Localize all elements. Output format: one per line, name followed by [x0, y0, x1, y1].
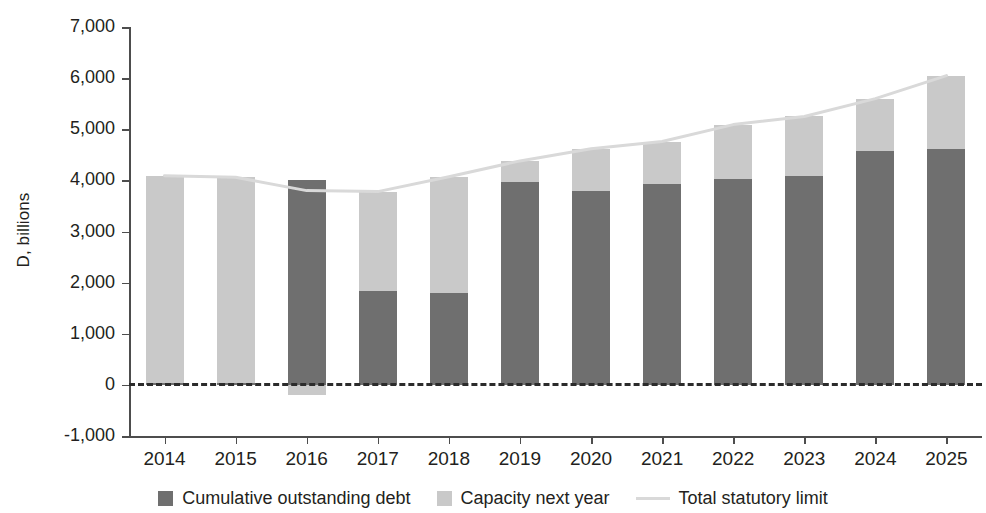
y-axis-tick-label: 6,000 [70, 67, 115, 87]
y-axis-tick-label: 4,000 [70, 169, 115, 189]
x-axis-tick-label: 2024 [840, 447, 911, 471]
chart-container: D, billions 7,0006,0005,0004,0003,0002,0… [0, 0, 986, 513]
x-axis-tick-mark [591, 436, 593, 444]
y-axis-tick-label: 5,000 [70, 118, 115, 138]
x-axis-tick-mark [946, 436, 948, 444]
plot-area: 7,0006,0005,0004,0003,0002,0001,0000-1,0… [0, 0, 986, 445]
x-axis-tick-mark [804, 436, 806, 444]
chart-legend: Cumulative outstanding debtCapacity next… [0, 483, 986, 513]
x-axis-tick-label: 2017 [342, 447, 413, 471]
x-axis-tick-label: 2016 [271, 447, 342, 471]
x-axis-tick-mark [449, 436, 451, 444]
legend-item[interactable]: Cumulative outstanding debt [158, 488, 410, 509]
x-axis-tick-label: 2018 [413, 447, 484, 471]
x-axis-tick-label: 2021 [627, 447, 698, 471]
x-axis-tick-label: 2020 [556, 447, 627, 471]
x-axis-tick-mark [165, 436, 167, 444]
x-axis-tick-label: 2015 [200, 447, 271, 471]
legend-item[interactable]: Capacity next year [437, 488, 610, 509]
legend-item-label: Total statutory limit [679, 488, 828, 509]
y-axis-tick-label: -1,000 [64, 425, 115, 445]
x-axis-tick-label: 2025 [911, 447, 982, 471]
y-axis-tick-label: 2,000 [70, 272, 115, 292]
zero-baseline [129, 383, 982, 386]
x-axis-tick-mark [520, 436, 522, 444]
x-axis-tick-mark [236, 436, 238, 444]
x-axis-tick-label: 2019 [484, 447, 555, 471]
legend-item-label: Cumulative outstanding debt [182, 488, 410, 509]
y-axis-tick-label: 3,000 [70, 221, 115, 241]
legend-square-swatch-icon [158, 491, 173, 506]
x-axis-tick-mark [662, 436, 664, 444]
x-axis-tick-mark [875, 436, 877, 444]
x-axis-tick-label: 2014 [129, 447, 200, 471]
legend-line-swatch-icon [636, 497, 670, 500]
legend-square-swatch-icon [437, 491, 452, 506]
total-statutory-limit-line [129, 0, 982, 445]
x-axis-tick-mark [307, 436, 309, 444]
y-axis-tick-label: 0 [105, 374, 115, 394]
x-axis-tick-mark [378, 436, 380, 444]
legend-item[interactable]: Total statutory limit [636, 488, 828, 509]
y-axis-tick-label: 1,000 [70, 323, 115, 343]
x-axis-tick-mark [733, 436, 735, 444]
x-axis-tick-label: 2023 [769, 447, 840, 471]
legend-item-label: Capacity next year [461, 488, 610, 509]
y-axis-tick-label: 7,000 [70, 16, 115, 36]
x-axis-tick-label: 2022 [698, 447, 769, 471]
